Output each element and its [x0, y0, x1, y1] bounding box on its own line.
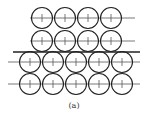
figure-caption: (a): [0, 101, 148, 110]
